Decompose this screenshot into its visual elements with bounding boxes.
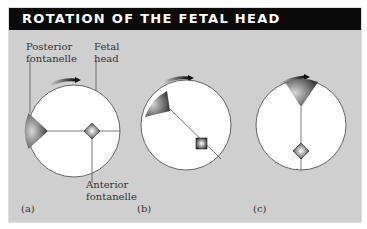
panel-label-b: (b) bbox=[137, 203, 151, 215]
panel-label-a: (a) bbox=[21, 203, 35, 215]
label-line: Posterior bbox=[26, 41, 77, 53]
label-line: Fetal bbox=[94, 41, 120, 53]
posterior-fontanelle-label: Posterior fontanelle bbox=[26, 41, 77, 65]
anterior-fontanelle-label: Anterior fontanelle bbox=[86, 179, 137, 203]
label-line: fontanelle bbox=[86, 191, 137, 203]
anterior-fontanelle-icon bbox=[196, 138, 207, 149]
rotation-arrow-icon bbox=[50, 80, 75, 85]
panel-c bbox=[256, 74, 346, 170]
label-line: head bbox=[94, 53, 120, 65]
arrow-head-icon bbox=[75, 77, 81, 83]
panel-b bbox=[141, 75, 231, 170]
panel-a bbox=[25, 60, 120, 183]
fetal-head-label: Fetal head bbox=[94, 41, 120, 65]
label-line: Anterior bbox=[86, 179, 137, 191]
fetal-head-diagram bbox=[0, 0, 367, 229]
label-line: fontanelle bbox=[26, 53, 77, 65]
panel-label-c: (c) bbox=[253, 203, 266, 215]
